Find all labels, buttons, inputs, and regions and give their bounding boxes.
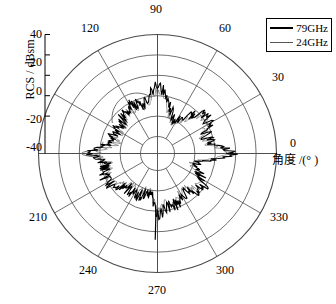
radial-axis-ticks <box>45 35 50 154</box>
polar-chart-figure: 40 20 0 -20 -40 RCS / dBsm 90 120 60 30 … <box>0 0 336 304</box>
legend-swatch-24ghz <box>270 42 293 43</box>
radial-axis-title: RCS / dBsm <box>23 27 38 113</box>
legend-label-79ghz: 79GHz <box>296 23 328 34</box>
angle-label-330: 330 <box>270 211 288 223</box>
polar-series-group <box>81 82 237 240</box>
angular-axis-title: 角度 /(° ) <box>272 150 318 168</box>
polar-grid <box>39 35 277 273</box>
chart-legend: 79GHz 24GHz <box>266 18 332 52</box>
angle-label-270: 270 <box>148 284 166 296</box>
angle-label-210: 210 <box>29 211 47 223</box>
angle-label-0: 0 <box>290 136 296 151</box>
angle-label-90: 90 <box>150 3 162 15</box>
angle-label-300: 300 <box>216 264 234 276</box>
angle-label-30: 30 <box>272 71 284 83</box>
angle-label-60: 60 <box>219 22 231 34</box>
legend-item-24ghz: 24GHz <box>270 35 328 49</box>
angle-label-240: 240 <box>79 264 97 276</box>
legend-label-24ghz: 24GHz <box>296 37 328 48</box>
legend-item-79ghz: 79GHz <box>270 21 328 35</box>
radial-tick-neg40: -40 <box>12 141 42 153</box>
angle-label-120: 120 <box>81 22 99 34</box>
legend-swatch-79ghz <box>270 27 293 29</box>
radial-tick-neg20: -20 <box>12 113 42 125</box>
